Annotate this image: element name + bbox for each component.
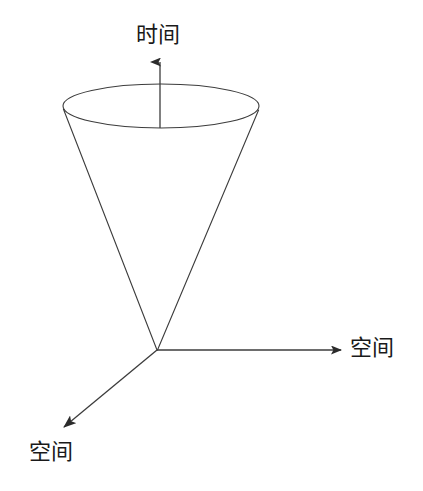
space-axis-left-line [64, 350, 157, 427]
time-axis-label: 时间 [136, 24, 180, 46]
cone-right-edge [158, 110, 259, 350]
cone-top-ellipse [63, 84, 259, 128]
light-cone-diagram-svg [0, 0, 423, 491]
space-axis-right-label: 空间 [350, 337, 394, 359]
light-cone-figure: 时间 空间 空间 [0, 0, 423, 491]
space-axis-left-label: 空间 [29, 441, 73, 463]
cone-left-edge [63, 109, 157, 350]
